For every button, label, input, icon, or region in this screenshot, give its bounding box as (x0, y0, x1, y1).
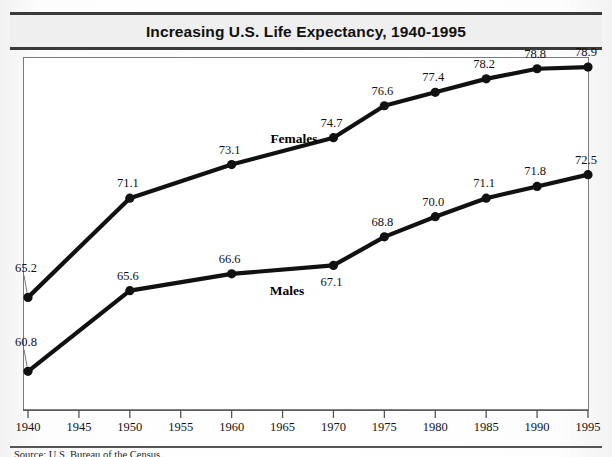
data-point-label: 74.7 (311, 116, 351, 131)
data-point-label: 78.2 (464, 57, 504, 72)
x-tick-label: 1950 (108, 420, 152, 435)
x-axis (23, 410, 588, 418)
data-point-label: 65.6 (108, 269, 148, 284)
series-label-males: Males (247, 283, 327, 299)
footer-divider (10, 446, 602, 448)
chart-page: Increasing U.S. Life Expectancy, 1940-19… (0, 0, 612, 457)
x-tick-label: 1940 (6, 420, 50, 435)
series-label-females: Females (254, 131, 334, 147)
data-point-label: 77.4 (413, 70, 453, 85)
data-point-label: 71.1 (108, 176, 148, 191)
x-tick-label: 1945 (57, 420, 101, 435)
source-note: Source: U.S. Bureau of the Census. (14, 449, 574, 457)
data-point-label: 60.8 (6, 335, 46, 350)
data-point-label: 65.2 (6, 261, 46, 276)
data-point-label: 78.9 (566, 45, 606, 60)
x-tick-label: 1970 (311, 420, 355, 435)
data-point-label: 70.0 (413, 195, 453, 210)
x-tick-label: 1975 (362, 420, 406, 435)
series-lines (28, 67, 588, 371)
data-point-label: 73.1 (210, 143, 250, 158)
data-point-label: 68.8 (362, 215, 402, 230)
x-tick-label: 1955 (159, 420, 203, 435)
data-point-label: 72.5 (566, 153, 606, 168)
data-point-label: 71.1 (464, 176, 504, 191)
x-tick-label: 1995 (566, 420, 610, 435)
x-tick-label: 1980 (413, 420, 457, 435)
data-point-label: 76.6 (362, 84, 402, 99)
data-point-label: 66.6 (210, 252, 250, 267)
x-tick-label: 1960 (210, 420, 254, 435)
x-tick-label: 1990 (515, 420, 559, 435)
chart-canvas (0, 0, 612, 457)
data-point-label: 71.8 (515, 164, 555, 179)
x-tick-label: 1985 (464, 420, 508, 435)
data-point-label: 78.8 (515, 47, 555, 62)
label-leader-lines (24, 275, 27, 366)
x-tick-label: 1965 (261, 420, 305, 435)
